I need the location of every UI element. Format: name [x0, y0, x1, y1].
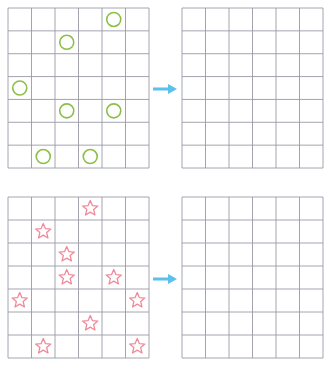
grid-cell[interactable]: [253, 220, 277, 243]
grid-cell[interactable]: [300, 197, 324, 220]
grid-cell[interactable]: [300, 220, 324, 243]
star-icon: [59, 270, 74, 284]
grid-cell[interactable]: [276, 122, 300, 145]
grid-cell[interactable]: [300, 243, 324, 266]
grid-cell[interactable]: [182, 312, 206, 335]
grid-cell[interactable]: [206, 220, 230, 243]
source-grid-stars: [7, 196, 150, 359]
grid-cell[interactable]: [276, 54, 300, 77]
grid-cell[interactable]: [300, 31, 324, 54]
grid-cell[interactable]: [276, 8, 300, 31]
grid-cell[interactable]: [206, 243, 230, 266]
grid-cell[interactable]: [206, 335, 230, 358]
target-grid-circles[interactable]: [181, 7, 324, 169]
grid-cell[interactable]: [300, 145, 324, 168]
grid-cell[interactable]: [276, 145, 300, 168]
grid-cell[interactable]: [253, 335, 277, 358]
grid-cell[interactable]: [229, 266, 253, 289]
grid-cell[interactable]: [300, 77, 324, 100]
star-icon: [106, 270, 121, 284]
star-icon: [130, 293, 145, 307]
grid-cell[interactable]: [253, 122, 277, 145]
grid-cell[interactable]: [206, 8, 230, 31]
grid-cell[interactable]: [276, 266, 300, 289]
grid-cell[interactable]: [253, 312, 277, 335]
grid-cell[interactable]: [206, 289, 230, 312]
source-grid-circles: [7, 7, 150, 169]
grid-cell[interactable]: [206, 197, 230, 220]
grid-cell[interactable]: [206, 145, 230, 168]
grid-cell[interactable]: [229, 77, 253, 100]
grid-cell[interactable]: [182, 220, 206, 243]
star-icon: [83, 316, 98, 330]
grid-cell[interactable]: [206, 54, 230, 77]
grid-cell[interactable]: [206, 266, 230, 289]
grid-cell[interactable]: [300, 312, 324, 335]
grid-cell[interactable]: [300, 54, 324, 77]
grid-cell[interactable]: [182, 197, 206, 220]
grid-cell[interactable]: [276, 197, 300, 220]
grid-cell[interactable]: [300, 289, 324, 312]
grid-cell[interactable]: [276, 31, 300, 54]
star-icon: [59, 247, 74, 261]
grid-cell[interactable]: [276, 99, 300, 122]
grid-cell[interactable]: [229, 8, 253, 31]
grid-cell[interactable]: [253, 8, 277, 31]
arrow-right-icon: [152, 272, 178, 286]
grid-cell[interactable]: [253, 99, 277, 122]
grid-cell[interactable]: [206, 312, 230, 335]
circle-icon: [107, 12, 121, 26]
circle-icon: [83, 150, 97, 164]
grid-cell[interactable]: [276, 243, 300, 266]
grid-cell[interactable]: [229, 289, 253, 312]
grid-cell[interactable]: [182, 145, 206, 168]
grid-cell[interactable]: [253, 243, 277, 266]
grid-cell[interactable]: [182, 8, 206, 31]
grid-cell[interactable]: [253, 54, 277, 77]
grid-cell[interactable]: [182, 266, 206, 289]
circle-icon: [107, 104, 121, 118]
grid-cell[interactable]: [276, 289, 300, 312]
grid-cell[interactable]: [229, 335, 253, 358]
grid-cell[interactable]: [253, 145, 277, 168]
grid-cell[interactable]: [182, 335, 206, 358]
grid-cell[interactable]: [276, 77, 300, 100]
grid-cell[interactable]: [229, 197, 253, 220]
target-grid-stars[interactable]: [181, 196, 324, 359]
grid-cell[interactable]: [229, 99, 253, 122]
grid-cell[interactable]: [276, 312, 300, 335]
grid-cell[interactable]: [300, 122, 324, 145]
grid-cell[interactable]: [182, 77, 206, 100]
grid-cell[interactable]: [300, 99, 324, 122]
circle-icon: [60, 35, 74, 49]
grid-cell[interactable]: [182, 99, 206, 122]
grid-cell[interactable]: [229, 243, 253, 266]
star-icon: [36, 224, 51, 238]
grid-cell[interactable]: [229, 31, 253, 54]
grid-cell[interactable]: [182, 289, 206, 312]
grid-cell[interactable]: [253, 31, 277, 54]
grid-cell[interactable]: [253, 266, 277, 289]
grid-cell[interactable]: [276, 335, 300, 358]
circle-icon: [36, 150, 50, 164]
grid-cell[interactable]: [206, 77, 230, 100]
grid-cell[interactable]: [182, 31, 206, 54]
grid-cell[interactable]: [206, 31, 230, 54]
grid-cell[interactable]: [253, 197, 277, 220]
grid-cell[interactable]: [229, 220, 253, 243]
grid-cell[interactable]: [182, 54, 206, 77]
grid-cell[interactable]: [253, 77, 277, 100]
grid-cell[interactable]: [300, 266, 324, 289]
grid-cell[interactable]: [206, 99, 230, 122]
grid-cell[interactable]: [229, 145, 253, 168]
grid-cell[interactable]: [300, 8, 324, 31]
grid-cell[interactable]: [182, 122, 206, 145]
grid-cell[interactable]: [253, 289, 277, 312]
grid-cell[interactable]: [276, 220, 300, 243]
grid-cell[interactable]: [229, 54, 253, 77]
grid-cell[interactable]: [229, 312, 253, 335]
grid-cell[interactable]: [229, 122, 253, 145]
grid-cell[interactable]: [182, 243, 206, 266]
grid-cell[interactable]: [206, 122, 230, 145]
grid-cell[interactable]: [300, 335, 324, 358]
